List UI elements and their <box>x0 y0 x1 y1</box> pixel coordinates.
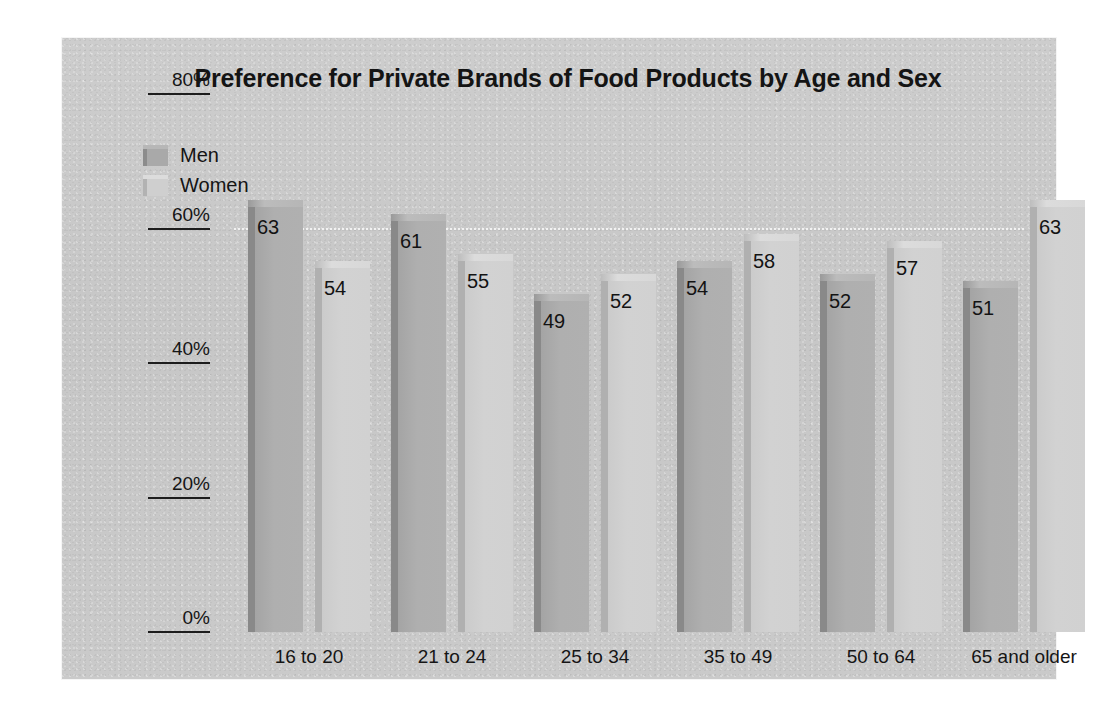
bar-value-label: 55 <box>467 270 489 293</box>
x-axis-category-label: 50 to 64 <box>802 646 960 668</box>
bar-value-label: 51 <box>972 297 994 320</box>
bar-value-label: 63 <box>1039 216 1061 239</box>
bar-front-face <box>465 261 513 632</box>
y-axis-tick <box>148 362 210 364</box>
bar-front-face <box>684 268 732 632</box>
bar-men-3[interactable]: 54 <box>677 261 732 632</box>
bar-value-label: 58 <box>753 250 775 273</box>
bar-women-5[interactable]: 63 <box>1030 200 1085 632</box>
y-axis-tick <box>148 93 210 95</box>
y-axis-tick <box>148 631 210 633</box>
bar-side-face <box>820 281 827 632</box>
gridline-60 <box>234 228 1024 230</box>
bar-value-label: 63 <box>257 216 279 239</box>
y-axis-tick-label: 80% <box>148 69 210 91</box>
bar-men-5[interactable]: 51 <box>963 281 1018 632</box>
bar-women-1[interactable]: 55 <box>458 254 513 632</box>
bar-front-face <box>541 301 589 632</box>
bar-value-label: 54 <box>324 277 346 300</box>
x-axis-category-label: 21 to 24 <box>373 646 531 668</box>
y-axis-tick-label: 40% <box>148 338 210 360</box>
bar-value-label: 54 <box>686 277 708 300</box>
bar-front-face <box>827 281 875 632</box>
bar-value-label: 49 <box>543 310 565 333</box>
x-axis-category-label: 16 to 20 <box>230 646 388 668</box>
bar-side-face <box>315 268 322 632</box>
bar-side-face <box>677 268 684 632</box>
bar-front-face <box>322 268 370 632</box>
bar-side-face <box>744 241 751 632</box>
bar-side-face <box>391 221 398 632</box>
bar-front-face <box>398 221 446 632</box>
page-canvas: Preference for Private Brands of Food Pr… <box>0 0 1104 714</box>
bar-front-face <box>894 248 942 632</box>
y-axis-tick-label: 20% <box>148 473 210 495</box>
x-axis-category-label: 25 to 34 <box>516 646 674 668</box>
bar-women-3[interactable]: 58 <box>744 234 799 632</box>
bar-front-face <box>970 288 1018 632</box>
y-axis-tick-label: 60% <box>148 204 210 226</box>
bar-side-face <box>601 281 608 632</box>
bar-front-face <box>255 207 303 632</box>
chart-panel: Preference for Private Brands of Food Pr… <box>62 38 1056 679</box>
bar-side-face <box>887 248 894 632</box>
y-axis-tick <box>148 228 210 230</box>
bar-front-face <box>751 241 799 632</box>
bar-men-4[interactable]: 52 <box>820 274 875 632</box>
plot-area: 0%20%40%60%80%635416 to 20615521 to 2449… <box>148 94 1038 632</box>
y-axis-tick-label: 0% <box>148 607 210 629</box>
bar-value-label: 52 <box>829 290 851 313</box>
chart-title: Preference for Private Brands of Food Pr… <box>138 64 998 93</box>
x-axis-category-label: 35 to 49 <box>659 646 817 668</box>
bar-men-1[interactable]: 61 <box>391 214 446 632</box>
bar-value-label: 57 <box>896 257 918 280</box>
bar-men-2[interactable]: 49 <box>534 294 589 632</box>
bar-side-face <box>248 207 255 632</box>
x-axis-category-label: 65 and older <box>945 646 1103 668</box>
bar-value-label: 61 <box>400 230 422 253</box>
bar-value-label: 52 <box>610 290 632 313</box>
bar-side-face <box>458 261 465 632</box>
bar-men-0[interactable]: 63 <box>248 200 303 632</box>
y-axis-tick <box>148 497 210 499</box>
bar-women-4[interactable]: 57 <box>887 241 942 632</box>
bar-women-2[interactable]: 52 <box>601 274 656 632</box>
bar-women-0[interactable]: 54 <box>315 261 370 632</box>
bar-side-face <box>1030 207 1037 632</box>
bar-side-face <box>534 301 541 632</box>
bar-side-face <box>963 288 970 632</box>
bar-front-face <box>1037 207 1085 632</box>
bar-front-face <box>608 281 656 632</box>
